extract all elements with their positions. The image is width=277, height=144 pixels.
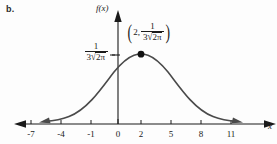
figure-panel: b. f(x) (0, 0, 277, 144)
y-value-denominator: 3√2π (85, 52, 108, 62)
annotation-close-paren: ) (165, 21, 170, 43)
annotation-fraction: 1 3√2π (141, 22, 164, 43)
x-axis-label: x (268, 121, 272, 131)
annotation-radical: √2π (148, 32, 163, 42)
annotation-radicand: 2π (152, 32, 162, 42)
curve-right-arrowhead (232, 118, 244, 124)
annotation-open-paren: ( (127, 21, 132, 43)
annotation-denominator: 3√2π (141, 32, 164, 42)
radical-symbol-icon: √ (148, 32, 153, 43)
peak-point-annotation: ( 2, 1 3√2π ) (126, 21, 171, 43)
x-axis-left-arrowhead (14, 120, 26, 128)
normal-distribution-curve (45, 54, 237, 121)
y-value-fraction: 1 3√2π (85, 42, 108, 63)
x-tick-label-5: 5 (162, 129, 180, 139)
x-tick-label-2: 2 (132, 129, 150, 139)
radical-symbol-icon: √ (91, 53, 96, 64)
peak-point-marker (138, 51, 145, 58)
x-tick-label-8: 8 (192, 129, 210, 139)
y-axis-label: f(x) (96, 3, 109, 13)
y-value-radical: √2π (91, 52, 106, 62)
y-value-numerator: 1 (85, 42, 108, 52)
y-value-radicand: 2π (95, 52, 105, 62)
x-tick-label-11: 11 (222, 129, 240, 139)
x-tick-label-0: 0 (109, 129, 127, 139)
y-axis-value-label: 1 3√2π (78, 42, 114, 63)
x-tick-label-neg4: -4 (52, 129, 70, 139)
curve-left-arrowhead (39, 118, 51, 124)
annotation-x-value: 2, (133, 27, 141, 37)
annotation-numerator: 1 (141, 22, 164, 32)
y-axis-arrowhead (114, 10, 121, 22)
x-tick-label-neg1: -1 (82, 129, 100, 139)
x-tick-label-neg7: -7 (22, 129, 40, 139)
